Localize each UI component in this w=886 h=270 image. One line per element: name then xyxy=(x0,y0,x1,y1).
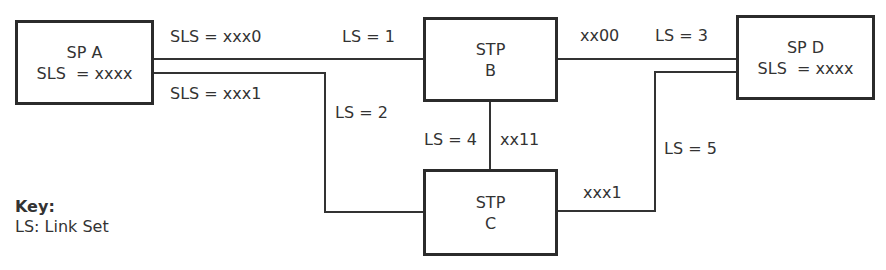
node-sp-a-sls: SLS = xxxx xyxy=(37,63,133,84)
label-xxx1-c: xxx1 xyxy=(583,184,622,202)
node-stp-b-type: STP xyxy=(476,39,506,60)
key-entry-ls: LS: Link Set xyxy=(15,217,109,236)
label-sls-xxx0: SLS = xxx0 xyxy=(170,28,261,46)
node-sp-d: SP D SLS = xxxx xyxy=(736,15,875,100)
label-sls-xxx1: SLS = xxx1 xyxy=(170,85,261,103)
label-ls-4: LS = 4 xyxy=(424,131,477,149)
label-ls-3: LS = 3 xyxy=(655,27,708,45)
label-ls-2: LS = 2 xyxy=(335,104,388,122)
label-xx11: xx11 xyxy=(500,131,539,149)
node-sp-d-name: SP D xyxy=(787,37,824,58)
label-ls-5: LS = 5 xyxy=(664,140,717,158)
node-sp-a-name: SP A xyxy=(67,42,103,63)
node-sp-d-sls: SLS = xxxx xyxy=(758,58,854,79)
key-title: Key: xyxy=(15,197,55,216)
label-ls-1: LS = 1 xyxy=(342,28,395,46)
node-stp-b: STP B xyxy=(423,17,558,102)
node-sp-a: SP A SLS = xxxx xyxy=(15,20,154,105)
node-stp-c-type: STP xyxy=(476,192,506,213)
node-stp-c: STP C xyxy=(423,169,558,256)
label-xx00: xx00 xyxy=(580,27,619,45)
node-stp-c-id: C xyxy=(485,213,496,234)
node-stp-b-id: B xyxy=(485,60,496,81)
